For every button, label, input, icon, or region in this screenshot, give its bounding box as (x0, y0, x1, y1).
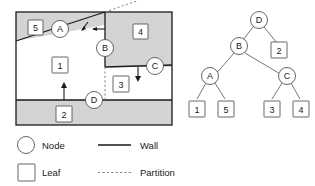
tree-diagram: D B 2 A C 1 5 (189, 12, 309, 118)
tree-node-a: A (202, 68, 219, 85)
legend-partition-label: Partition (140, 167, 175, 178)
map-node-a: A (52, 21, 69, 38)
tree-leaf-4: 4 (293, 101, 309, 117)
tree-node-b-label: B (236, 41, 242, 51)
partition-diagonal (105, 1, 137, 12)
tree-leaf-3: 3 (264, 101, 280, 117)
map-node-a-label: A (57, 24, 63, 34)
map-diagram: 5 4 1 3 2 A B C (16, 1, 172, 125)
map-leaf-4-label: 4 (138, 27, 143, 37)
map-node-b-label: B (102, 43, 108, 53)
tree-leaf-5-label: 5 (223, 105, 228, 115)
edge-a-leaf5 (215, 83, 225, 99)
square-icon (18, 164, 35, 181)
edge-c-leaf3 (272, 83, 282, 99)
figure-root: 5 4 1 3 2 A B C (0, 0, 315, 186)
tree-node-d: D (251, 12, 268, 29)
legend-item-wall: Wall (98, 140, 158, 151)
tree-node-a-label: A (207, 71, 213, 81)
legend-item-leaf: Leaf (18, 164, 61, 181)
tree-leaf-2-label: 2 (276, 46, 281, 56)
region-4-fill (105, 12, 172, 67)
circle-icon (18, 137, 35, 154)
map-leaf-2-label: 2 (61, 110, 66, 120)
map-leaf-5-label: 5 (33, 23, 38, 33)
map-node-d: D (86, 92, 103, 109)
map-leaf-4: 4 (133, 24, 148, 39)
map-leaf-1-label: 1 (57, 61, 62, 71)
map-node-c-label: C (152, 61, 159, 71)
tree-leaf-1: 1 (189, 101, 205, 117)
tree-leaf-5: 5 (218, 101, 234, 117)
tree-node-d-label: D (256, 15, 263, 25)
tree-edges (197, 27, 300, 99)
tree-leaf-4-label: 4 (298, 105, 303, 115)
tree-leaf-3-label: 3 (269, 105, 274, 115)
tree-node-c-label: C (284, 71, 291, 81)
legend-wall-label: Wall (140, 140, 158, 151)
legend-leaf-label: Leaf (42, 167, 61, 178)
legend-item-partition: Partition (98, 167, 175, 178)
legend-item-node: Node (18, 137, 65, 154)
edge-a-leaf1 (197, 83, 206, 99)
legend-node-label: Node (42, 140, 65, 151)
map-leaf-3-label: 3 (118, 80, 123, 90)
map-node-d-label: D (91, 95, 98, 105)
map-node-c: C (147, 58, 164, 75)
map-leaf-3: 3 (113, 76, 129, 92)
legend: Node Wall Leaf Partition (18, 137, 175, 182)
tree-leaf-1-label: 1 (194, 105, 199, 115)
map-leaf-2: 2 (56, 106, 72, 122)
edge-c-leaf4 (291, 83, 300, 99)
edge-b-a (215, 53, 234, 75)
tree-node-c: C (279, 68, 296, 85)
map-node-b: B (97, 40, 114, 57)
tree-node-b: B (231, 38, 248, 55)
map-leaf-1: 1 (52, 57, 68, 73)
edge-d-leaf2 (264, 27, 277, 43)
tree-leaf-2: 2 (271, 42, 287, 58)
map-leaf-5: 5 (28, 20, 43, 35)
